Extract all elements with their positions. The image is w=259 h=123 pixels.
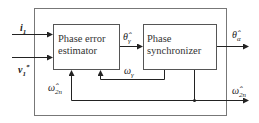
block-label-line1: Phase error [58,33,106,45]
phase-synchronizer-label: Phase synchronizer [147,33,201,57]
input-v1-label: v1* [18,62,29,79]
omega-2n-feedback-label: ω̂2n [48,83,62,97]
block-label-line2: synchronizer [147,45,201,57]
theta-gamma-label: θ̂γ [123,32,131,46]
block-label-line2: estimator [58,45,106,57]
theta-alpha-output-label: θ̂α [232,30,241,44]
phase-error-estimator-label: Phase error estimator [58,33,106,57]
omega-gamma-label: ωγ [124,66,134,80]
block-label-line1: Phase [147,33,201,45]
block-diagram-lines [0,0,259,123]
omega-2n-output-label: ω̂2n [232,86,246,100]
input-i1-label: i1 [20,23,26,37]
junction-dot [193,99,196,102]
